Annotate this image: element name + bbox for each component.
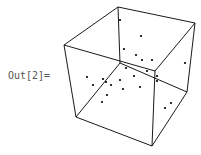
data-point: [92, 84, 94, 86]
data-point: [106, 94, 108, 96]
data-point: [139, 86, 141, 88]
data-point: [119, 79, 121, 81]
box-edge: [118, 7, 120, 63]
box-edge: [187, 23, 195, 92]
box-edge: [76, 117, 152, 146]
data-point: [122, 88, 124, 90]
data-point: [140, 35, 142, 37]
data-point: [141, 59, 143, 61]
data-point: [135, 54, 137, 56]
data-point: [105, 81, 107, 83]
data-point: [86, 76, 88, 78]
box-edge: [64, 7, 118, 45]
data-point: [110, 84, 112, 86]
data-point: [151, 59, 153, 61]
data-point: [133, 75, 135, 77]
data-point: [123, 48, 125, 50]
box-edge: [155, 23, 195, 71]
data-point: [125, 67, 127, 69]
data-point: [146, 70, 148, 72]
3d-point-plot[interactable]: [0, 0, 201, 155]
data-point: [164, 107, 166, 109]
box-edge: [64, 45, 155, 71]
box-edge: [76, 63, 120, 117]
box-edge: [152, 92, 187, 146]
data-point: [119, 19, 121, 21]
data-point: [156, 75, 158, 77]
box-edge: [152, 71, 155, 146]
box-edge: [64, 45, 76, 117]
data-point: [101, 101, 103, 103]
data-point: [170, 102, 172, 104]
data-point: [102, 78, 104, 80]
bounding-box: [64, 7, 195, 146]
data-point: [156, 80, 158, 82]
data-point: [184, 62, 186, 64]
box-edge: [120, 63, 187, 92]
box-edge: [118, 7, 195, 23]
data-points: [86, 19, 186, 109]
